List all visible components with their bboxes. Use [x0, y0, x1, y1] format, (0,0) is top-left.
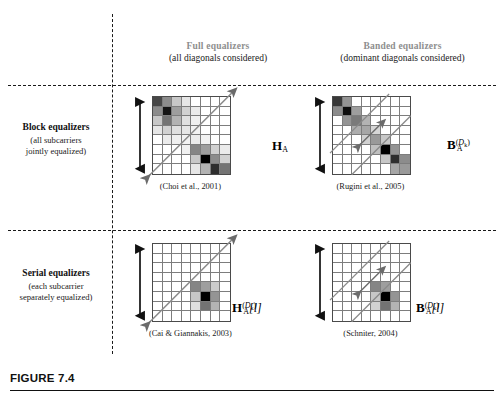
matrix-grid: [332, 243, 411, 322]
matrix-cell: [153, 97, 163, 107]
matrix-cell: [343, 97, 353, 107]
matrix-cell: [400, 292, 410, 302]
matrix-cell: [182, 311, 192, 321]
matrix-cell: [191, 116, 201, 126]
matrix-cell: [211, 244, 221, 254]
matrix-cell: [172, 311, 182, 321]
matrix-cell: [400, 282, 410, 292]
matrix-cell: [400, 97, 410, 107]
matrix-cell: [163, 282, 173, 292]
matrix-cell: [343, 273, 353, 283]
matrix-cell: [182, 263, 192, 273]
column-divider: [112, 14, 113, 354]
matrix-cell: [381, 126, 391, 136]
matrix-label-block-banded: B(Dk)A: [447, 137, 463, 153]
matrix-cell: [191, 311, 201, 321]
matrix-cell: [220, 126, 230, 136]
matrix-cell: [391, 292, 401, 302]
matrix-cell: [362, 311, 372, 321]
matrix-cell: [153, 145, 163, 155]
matrix-cell: [381, 244, 391, 254]
matrix-cell: [362, 282, 372, 292]
matrix-cell: [362, 126, 372, 136]
matrix-cell: [153, 155, 163, 165]
matrix-citation: (Cai & Giannakis, 2003): [149, 329, 232, 338]
matrix-cell: [371, 292, 381, 302]
matrix-cell: [362, 107, 372, 117]
matrix-cell: [333, 155, 343, 165]
matrix-cell: [172, 155, 182, 165]
matrix-label-serial-full: H(Dk)A[l]: [232, 300, 262, 316]
matrix-cell: [391, 126, 401, 136]
matrix-cell: [172, 244, 182, 254]
matrix-cell: [371, 302, 381, 312]
matrix-cell: [163, 302, 173, 312]
matrix-cell: [191, 126, 201, 136]
matrix-cell: [201, 263, 211, 273]
matrix-cell: [381, 254, 391, 264]
matrix-cell: [163, 263, 173, 273]
matrix-cell: [371, 116, 381, 126]
matrix-cell: [163, 135, 173, 145]
row-header-serial-subtitle-2: separately equalized): [0, 292, 112, 303]
matrix-cell: [182, 126, 192, 136]
matrix-cell: [153, 107, 163, 117]
matrix-cell: [362, 135, 372, 145]
matrix-cell: [333, 302, 343, 312]
matrix-cell: [163, 292, 173, 302]
matrix-cell: [362, 97, 372, 107]
matrix-cell: [343, 282, 353, 292]
matrix-cell: [172, 302, 182, 312]
matrix-cell: [343, 145, 353, 155]
matrix-cell: [391, 135, 401, 145]
matrix-cell: [172, 145, 182, 155]
matrix-cell: [201, 107, 211, 117]
matrix-cell: [333, 135, 343, 145]
matrix-cell: [163, 97, 173, 107]
matrix-cell: [371, 126, 381, 136]
matrix-cell: [191, 254, 201, 264]
matrix-label-serial-banded: B(Dk)A[l]: [416, 300, 444, 316]
matrix-cell: [362, 273, 372, 283]
matrix-cell: [163, 145, 173, 155]
matrix-cell: [172, 282, 182, 292]
matrix-cell: [391, 282, 401, 292]
matrix-cell: [400, 263, 410, 273]
matrix-cell: [191, 155, 201, 165]
matrix-cell: [220, 302, 230, 312]
matrix-cell: [400, 164, 410, 174]
matrix-cell: [333, 164, 343, 174]
matrix-cell: [352, 107, 362, 117]
matrix-cell: [381, 145, 391, 155]
matrix-cell: [381, 135, 391, 145]
matrix-cell: [371, 311, 381, 321]
row-header-block: Block equalizers (all subcarriers jointl…: [0, 122, 112, 156]
matrix-cell: [343, 164, 353, 174]
matrix-cell: [211, 292, 221, 302]
matrix-extent-arrow: [312, 96, 328, 179]
matrix-cell: [391, 145, 401, 155]
matrix-cell: [391, 263, 401, 273]
matrix-cell: [220, 292, 230, 302]
matrix-extent-arrow: [132, 243, 148, 326]
matrix-cell: [182, 302, 192, 312]
matrix-label-block-full: HA: [272, 138, 288, 154]
matrix-cell: [201, 155, 211, 165]
matrix-cell: [153, 292, 163, 302]
matrix-cell: [191, 244, 201, 254]
matrix-grid: [152, 96, 231, 175]
matrix-cell: [343, 263, 353, 273]
matrix-cell: [172, 135, 182, 145]
matrix-cell: [343, 155, 353, 165]
matrix-cell: [153, 273, 163, 283]
matrix-cell: [352, 126, 362, 136]
row-header-block-subtitle-2: jointly equalized): [0, 146, 112, 157]
matrix-cell: [220, 164, 230, 174]
matrix-cell: [211, 263, 221, 273]
matrix-cell: [371, 107, 381, 117]
matrix-cell: [371, 254, 381, 264]
column-header-full-title: Full equalizers: [128, 40, 308, 52]
matrix-cell: [381, 311, 391, 321]
matrix-cell: [163, 116, 173, 126]
matrix-citation: (Choi et al., 2001): [160, 182, 221, 191]
